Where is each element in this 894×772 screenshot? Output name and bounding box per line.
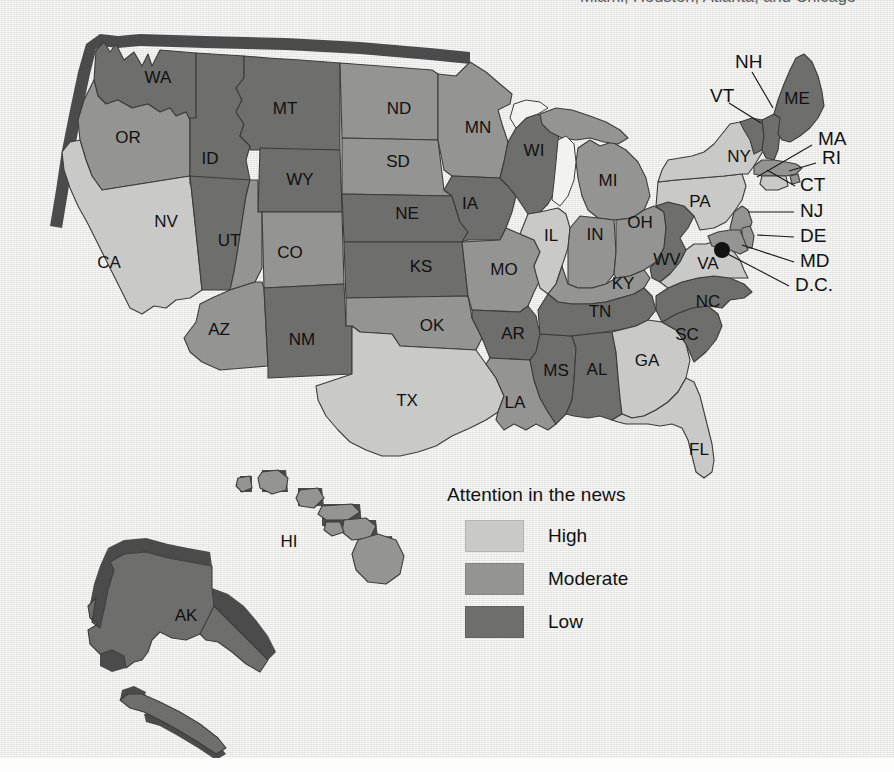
- state-MA[interactable]: [754, 160, 802, 176]
- state-NM[interactable]: [264, 284, 352, 378]
- state-AK-aleutians[interactable]: [120, 694, 226, 754]
- page-bottom-margin: [0, 758, 894, 772]
- legend-item-low[interactable]: Low: [447, 606, 707, 638]
- callout-label-MD: MD: [800, 250, 830, 271]
- state-WY[interactable]: [258, 148, 342, 212]
- state-SD[interactable]: [342, 138, 452, 196]
- state-MI[interactable]: [576, 140, 650, 220]
- states-layer: [62, 42, 824, 760]
- legend: Attention in the news High Moderate Low: [447, 484, 707, 649]
- callout-label-DC: D.C.: [795, 274, 833, 295]
- map-screenshot: Miami, Houston, Atlanta, and Chicago: [0, 0, 894, 772]
- dc-marker-dot[interactable]: [714, 242, 730, 258]
- legend-item-high[interactable]: High: [447, 520, 707, 552]
- legend-label-moderate: Moderate: [548, 568, 628, 590]
- legend-label-high: High: [548, 525, 587, 547]
- leader-line-DE: [757, 235, 794, 237]
- callout-label-MA: MA: [818, 128, 847, 149]
- us-choropleth-map: WAORCANVIDMTWYUTAZCONMNDSDNEKSOKTXMNIAMO…: [0, 0, 894, 772]
- hawaii-island-lanai[interactable]: [324, 522, 344, 536]
- callout-label-RI: RI: [822, 147, 841, 168]
- state-MO[interactable]: [462, 228, 540, 312]
- state-MN[interactable]: [438, 62, 512, 178]
- legend-label-low: Low: [548, 611, 583, 633]
- state-CO[interactable]: [262, 212, 344, 288]
- state-NE[interactable]: [342, 194, 468, 242]
- leader-line-MD: [742, 245, 794, 262]
- state-label-HI: HI: [281, 532, 298, 551]
- legend-title: Attention in the news: [447, 484, 707, 506]
- legend-swatch-low: [465, 606, 524, 638]
- hawaii-island-hawaii[interactable]: [352, 534, 404, 584]
- state-ND[interactable]: [340, 63, 438, 140]
- state-NH[interactable]: [762, 114, 782, 160]
- callout-label-NH: NH: [735, 51, 762, 72]
- legend-item-moderate[interactable]: Moderate: [447, 563, 707, 595]
- leader-line-NH: [752, 72, 773, 108]
- callout-label-VT: VT: [710, 85, 735, 106]
- state-IN[interactable]: [568, 216, 616, 288]
- callout-label-DE: DE: [800, 225, 826, 246]
- hawaii-inset: [236, 470, 404, 584]
- state-KS[interactable]: [344, 242, 468, 298]
- state-RI[interactable]: [790, 174, 800, 184]
- state-ME[interactable]: [774, 54, 824, 142]
- state-CT[interactable]: [760, 176, 788, 190]
- alaska-inset: [88, 538, 276, 760]
- state-AR[interactable]: [472, 306, 540, 360]
- state-AZ[interactable]: [184, 282, 268, 370]
- callout-label-CT: CT: [800, 174, 826, 195]
- legend-swatch-high: [465, 520, 524, 552]
- state-MT[interactable]: [236, 56, 340, 150]
- callout-label-NJ: NJ: [800, 200, 823, 221]
- legend-swatch-moderate: [465, 563, 524, 595]
